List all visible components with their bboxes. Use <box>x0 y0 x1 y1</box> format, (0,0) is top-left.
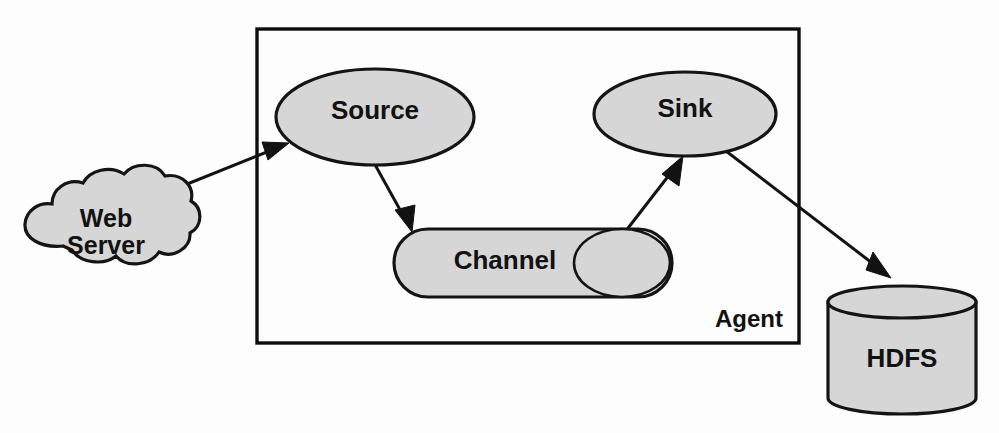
node-source[interactable]: Source <box>276 69 474 165</box>
node-web-server[interactable]: Web Server <box>25 165 200 264</box>
channel-label: Channel <box>454 245 557 275</box>
channel-cylinder-end-cap <box>574 229 670 297</box>
edge-sink-to-hdfs <box>722 148 891 278</box>
source-label: Source <box>331 95 419 125</box>
sink-label: Sink <box>658 93 713 123</box>
flume-agent-diagram: Web Server Source Sink Channel HDFS <box>0 0 999 433</box>
web-server-label-line1: Web <box>80 204 132 232</box>
hdfs-cylinder-top <box>828 286 976 318</box>
web-server-label-line2: Server <box>67 231 145 259</box>
agent-label: Agent <box>715 305 783 332</box>
edge-channel-to-sink <box>625 156 683 232</box>
hdfs-label: HDFS <box>867 343 938 373</box>
diagram-canvas: Web Server Source Sink Channel HDFS <box>0 0 999 433</box>
node-channel[interactable]: Channel <box>394 229 672 297</box>
node-hdfs[interactable]: HDFS <box>828 286 976 414</box>
node-sink[interactable]: Sink <box>594 72 776 156</box>
